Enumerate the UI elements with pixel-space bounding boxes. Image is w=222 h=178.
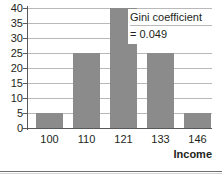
y-tick-label: 0 (2, 123, 23, 134)
gini-annotation: Gini coefficient = 0.049 (128, 9, 212, 44)
footer-divider (0, 171, 222, 172)
y-tick-label: 20 (2, 63, 23, 74)
x-axis-title: Income (173, 148, 212, 160)
chart-figure: 40 35 30 25 20 15 10 5 0 100 110 (0, 0, 222, 178)
y-tick-label: 10 (2, 93, 23, 104)
bar-133 (147, 53, 174, 128)
annotation-divider (130, 25, 212, 26)
footer-divider-shadow (0, 173, 222, 174)
y-tick-label: 35 (2, 18, 23, 29)
gini-annotation-value: = 0.049 (130, 27, 212, 42)
y-axis-line (27, 6, 28, 130)
y-tick-label: 30 (2, 33, 23, 44)
y-tick-label: 25 (2, 48, 23, 59)
gini-annotation-label: Gini coefficient (130, 10, 212, 25)
bar-100 (36, 113, 63, 128)
x-axis-line (22, 128, 212, 129)
y-tick-label: 15 (2, 78, 23, 89)
y-tick-label: 5 (2, 108, 23, 119)
y-axis-tick-labels: 40 35 30 25 20 15 10 5 0 (0, 0, 23, 178)
bar-110 (73, 53, 100, 128)
bar-146 (184, 113, 211, 128)
y-tick-label: 40 (2, 3, 23, 14)
x-tick-label-4: 146 (175, 133, 220, 145)
